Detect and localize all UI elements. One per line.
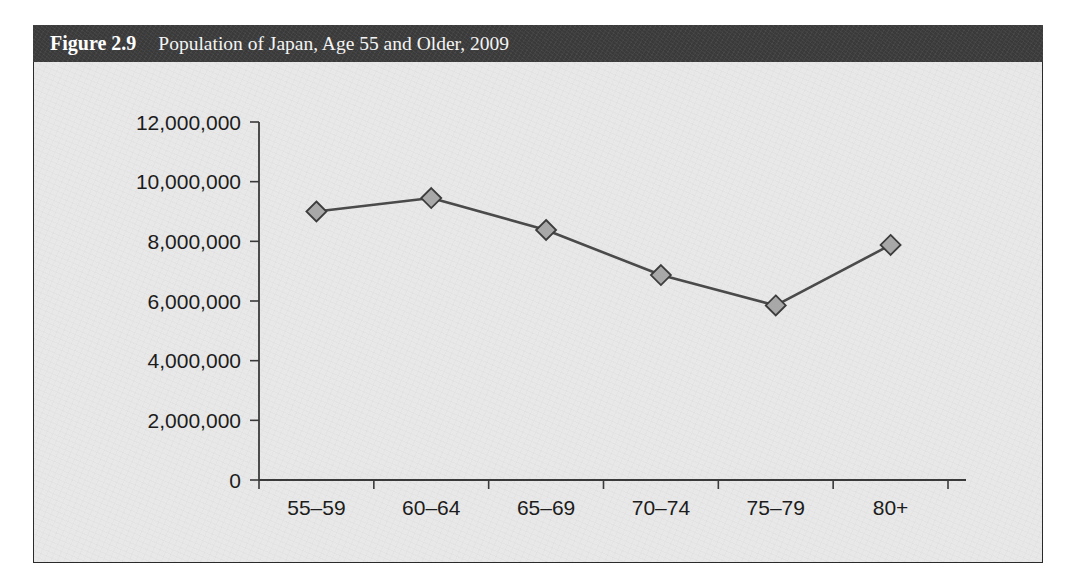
figure-title-text: Population of Japan, Age 55 and Older, 2…	[158, 33, 509, 55]
figure-number-label: Figure 2.9	[50, 32, 136, 55]
plot-panel	[34, 62, 1042, 562]
figure-title-banner: Figure 2.9 Population of Japan, Age 55 a…	[33, 25, 1043, 62]
figure-page: Figure 2.9 Population of Japan, Age 55 a…	[0, 0, 1079, 587]
